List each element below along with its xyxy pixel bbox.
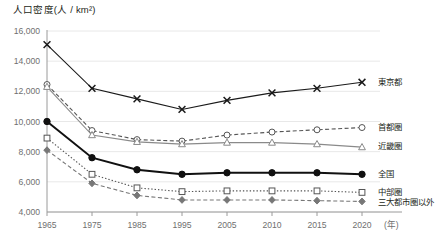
series-line	[47, 45, 362, 110]
y-tick-label: 16,000	[14, 26, 41, 36]
chart-legend: 東京都首都圏近畿圏全国中部圏三大都市圏以外	[378, 77, 435, 207]
data-point-marker	[224, 132, 230, 138]
data-point-marker	[134, 167, 140, 173]
data-point-marker	[134, 185, 140, 191]
data-point-marker	[179, 197, 185, 204]
y-tick-label: 8,000	[18, 147, 40, 157]
data-point-marker	[179, 189, 185, 195]
x-tick-label: 2005	[217, 220, 236, 230]
legend-label-3: 全国	[378, 169, 394, 179]
x-tick-label: 1965	[37, 220, 56, 230]
data-point-marker	[359, 189, 365, 195]
data-point-marker	[269, 188, 275, 194]
data-point-marker	[179, 171, 185, 177]
y-tick-label: 14,000	[14, 56, 41, 66]
legend-label-2: 近畿圏	[378, 141, 402, 151]
series-plot-area	[44, 41, 366, 205]
data-point-marker	[134, 192, 140, 199]
x-axis-unit-label: (年)	[384, 219, 399, 230]
data-point-marker	[269, 129, 275, 135]
data-point-marker	[44, 135, 50, 141]
x-tick-label: 1995	[172, 220, 191, 230]
population-density-chart: 人口密度(人 / km²) 16,00014,00012,00010,0008,…	[0, 0, 440, 239]
x-tick-label: 2020	[352, 220, 371, 230]
x-tick-label: 2010	[262, 220, 281, 230]
legend-label-5: 三大都市圏以外	[378, 197, 435, 207]
data-point-marker	[269, 197, 275, 204]
data-point-marker	[89, 155, 95, 161]
chart-canvas: 16,00014,00012,00010,0008,0006,0004,000 …	[0, 0, 440, 239]
y-tick-label: 4,000	[18, 207, 40, 217]
legend-label-1: 首都圏	[378, 122, 402, 132]
data-point-marker	[314, 170, 320, 176]
data-point-marker	[359, 171, 365, 177]
data-point-marker	[224, 188, 230, 194]
data-point-marker	[359, 198, 365, 205]
data-point-marker	[224, 197, 230, 204]
x-tick-label: 2015	[307, 220, 326, 230]
data-point-marker	[314, 197, 320, 204]
legend-label-4: 中部圏	[378, 187, 402, 197]
y-axis-tick-labels: 16,00014,00012,00010,0008,0006,0004,000	[14, 26, 41, 217]
y-tick-label: 10,000	[14, 117, 41, 127]
series-0	[44, 41, 366, 113]
data-point-marker	[44, 147, 50, 154]
x-axis-tick-labels: 19651975198519952005201020152020(年)	[37, 212, 398, 230]
x-tick-label: 1985	[127, 220, 146, 230]
data-point-marker	[44, 118, 50, 124]
data-point-marker	[269, 170, 275, 176]
data-point-marker	[89, 180, 95, 187]
y-tick-label: 12,000	[14, 86, 41, 96]
legend-label-0: 東京都	[378, 77, 403, 87]
x-tick-label: 1975	[82, 220, 101, 230]
data-point-marker	[314, 188, 320, 194]
data-point-marker	[224, 170, 230, 176]
data-point-marker	[314, 127, 320, 133]
y-tick-label: 6,000	[18, 177, 40, 187]
data-point-marker	[89, 171, 95, 177]
series-2	[44, 83, 366, 150]
data-point-marker	[359, 125, 365, 131]
